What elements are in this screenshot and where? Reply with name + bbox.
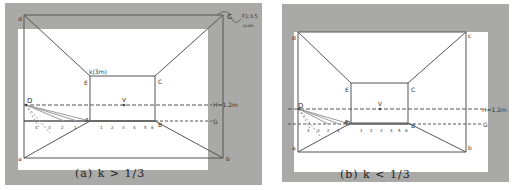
label-B: B — [411, 122, 415, 129]
ground-tick: 3 — [380, 128, 383, 133]
left-tick: 1 — [74, 125, 77, 130]
label-V: V — [378, 100, 383, 107]
label-C: C — [158, 78, 162, 85]
left-tick: 4 — [307, 128, 310, 133]
left-tick: 2 — [327, 128, 330, 133]
label-D: D — [298, 102, 303, 110]
label-B: B — [158, 121, 162, 128]
label-E-note: k(3m) — [89, 68, 107, 75]
label-c: c — [468, 32, 471, 39]
ground-tick: 2 — [370, 128, 373, 133]
ground-tick: 5 — [144, 125, 147, 130]
left-tick: 3 — [317, 128, 320, 133]
label-d: d — [18, 15, 22, 22]
left-tick: 3 — [48, 125, 51, 130]
perspective-drawing-b: d c a b E C A B D V H=1.2m G 1 2 3 4 5 6… — [282, 4, 509, 182]
label-E: E — [345, 86, 349, 93]
label-H-line: H=1.2m — [213, 101, 238, 108]
label-a: a — [18, 155, 22, 162]
label-V: V — [122, 96, 127, 103]
ground-tick: 5 — [398, 128, 401, 133]
label-E: E — [84, 79, 88, 86]
corner-note-2: scale — [243, 23, 254, 28]
panel-a: d c a b E C A B D V k(3m) H=1.2m G F1:3.… — [5, 3, 262, 185]
corner-note-1: F1:3.5 — [242, 13, 258, 19]
ground-tick: 6 — [151, 125, 154, 130]
label-b: b — [226, 155, 230, 162]
label-a: a — [292, 144, 296, 151]
label-G-line: G — [483, 121, 488, 128]
label-c: c — [227, 11, 232, 21]
label-b: b — [468, 144, 472, 151]
ground-tick: 3 — [122, 125, 125, 130]
ground-tick: 2 — [111, 125, 114, 130]
perspective-drawing-a: d c a b E C A B D V k(3m) H=1.2m G F1:3.… — [5, 3, 262, 185]
ground-tick: 1 — [360, 128, 363, 133]
ground-tick: 6 — [405, 128, 408, 133]
label-C: C — [411, 86, 415, 93]
ground-tick: 4 — [390, 128, 393, 133]
ground-tick: 4 — [133, 125, 136, 130]
label-H-line: H=1.2m — [482, 106, 507, 113]
label-G-line: G — [213, 118, 218, 125]
ground-tick: 1 — [100, 125, 103, 130]
left-tick: 4 — [35, 125, 38, 130]
caption-b: (b) k < 1/3 — [340, 168, 411, 181]
label-d: d — [292, 34, 296, 41]
caption-a: (a) k > 1/3 — [75, 167, 145, 180]
panel-b: d c a b E C A B D V H=1.2m G 1 2 3 4 5 6… — [282, 4, 509, 182]
left-tick: 2 — [61, 125, 64, 130]
label-D: D — [27, 97, 32, 105]
